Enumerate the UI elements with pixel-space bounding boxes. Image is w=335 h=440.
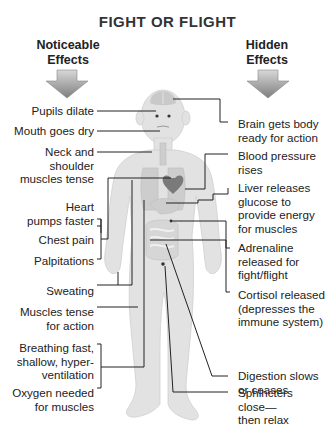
sphincter-dot [161,262,165,266]
effect-brain-ready: Brain gets body ready for action [238,117,319,144]
effect-chest-pain: Chest pain [39,233,94,247]
effect-sphincters: Sphincters close— then relax [238,386,293,427]
effect-breathing-fast: Breathing fast, shallow, hyper- ventilat… [17,341,94,382]
effect-heart-pumps-faster: Heart pumps faster [27,200,94,227]
down-arrow-icon-right [247,70,289,98]
effect-blood-pressure: Blood pressure rises [238,149,316,176]
effect-cortisol: Cortisol released (depresses the immune … [238,288,325,329]
effect-liver-glucose: Liver releases glucose to provide energy… [238,181,315,235]
effect-mouth-goes-dry: Mouth goes dry [14,124,94,138]
down-arrow-icon-left [46,70,88,98]
effect-oxygen-needed: Oxygen needed for muscles [12,386,94,413]
effect-pupils-dilate: Pupils dilate [31,104,94,118]
effect-neck-shoulder-tense: Neck and shoulder muscles tense [20,145,94,186]
effect-adrenaline: Adrenaline released for fight/flight [238,241,299,282]
adrenal-dot [170,220,173,223]
effect-muscles-tense: Muscles tense for action [20,305,94,332]
effect-palpitations: Palpitations [34,254,94,268]
effect-sweating: Sweating [46,284,94,298]
